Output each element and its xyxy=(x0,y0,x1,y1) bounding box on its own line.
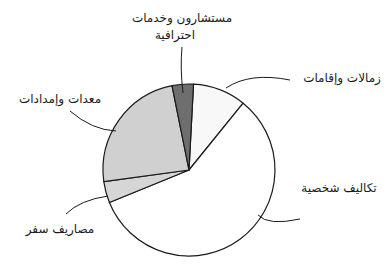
label-consultants-line2: احترافية xyxy=(122,27,228,44)
label-personal-costs: تكاليف شخصية xyxy=(290,180,388,197)
label-equipment-supplies: معدات وإمدادات xyxy=(12,91,108,108)
leader-line-travel xyxy=(66,196,108,214)
label-consultants-line1: مستشارون وخدمات xyxy=(122,10,242,27)
leader-line-equipment xyxy=(70,111,116,131)
label-fellowships: زمالات وإقامات xyxy=(298,70,386,87)
leader-line-personal xyxy=(258,215,300,222)
pie-slices xyxy=(103,84,275,256)
label-travel-expenses: مصاريف سفر xyxy=(18,221,102,238)
leader-line-fellowships xyxy=(226,77,290,88)
